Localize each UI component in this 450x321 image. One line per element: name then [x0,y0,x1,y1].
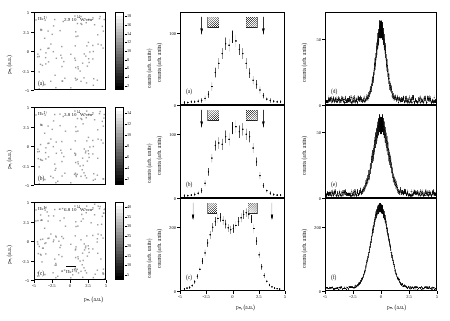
plot-canvas-d [326,13,436,104]
intensity-label-c: 6.8 1014W/cm² [64,205,94,212]
plot-canvas-b [181,106,284,197]
density-canvas-a [35,13,106,90]
right-panels: (d) (e) (f) counts (arb. units) counts (… [295,12,450,312]
density-canvas-b [35,108,106,185]
panel-label-e: (e) [331,181,337,187]
plot-canvas-a [181,13,284,104]
ylabel-a: pₙᵧ (a.u.) [6,55,12,74]
xlabel-left-column: pₙₓ (a.u.) [84,296,103,302]
panel-label-a: (a) [38,80,44,86]
panel-label-b: (b) [38,175,44,181]
ylabel-f: counts (arb. units) [301,229,307,268]
panel-label-f: (f) [331,274,336,280]
plot-d [325,12,437,105]
intensity-unit-b: W/cm² [80,112,94,117]
plot-canvas-f [326,199,436,290]
right-column: (d) (e) (f) counts (arb. units) counts (… [295,0,450,321]
intensity-mantissa-a: 2.9 [64,17,70,22]
ylabel-mid-c: counts (arb. units) [156,229,162,268]
ylabel-d: counts (arb. units) [301,43,307,82]
colorbar-ticks-b: 1412108642 [125,107,147,185]
panel-label-mid-a: (a) [186,88,192,94]
ylabel-c: pₙᵧ (a.u.) [6,245,12,264]
colorbar-ticks-a: 18161412108642 [125,12,147,90]
plot-b [180,105,285,198]
density-map-b [34,107,106,185]
xlabel-middle-column: pₙᵧ (a.u.) [236,304,255,310]
ylabel-e: counts (arb. units) [301,136,307,175]
plot-e [325,105,437,198]
colorbar-ticks-c: 403530252015105 [125,202,147,280]
intensity-mantissa-c: 6.8 [64,207,70,212]
plot-canvas-c [181,199,284,290]
intensity-mantissa-b: 3.8 [64,112,70,117]
density-map-a [34,12,106,90]
figure-root: He²⁺ 2.9 1014W/cm² (a) pₙᵧ (a.u.) 181614… [0,0,450,321]
plot-f [325,198,437,291]
intensity-label-b: 3.8 1014W/cm² [64,110,94,117]
colorbar-a [115,12,124,90]
middle-column: (a) (b) (c) counts (arb. units) counts (… [150,0,295,321]
species-label-c: He²⁺ [38,205,48,211]
intensity-unit-a: W/cm² [80,17,94,22]
ylabel-mid-b: counts (arb. units) [156,136,162,175]
species-label-a: He²⁺ [38,15,48,21]
extra-species-label-c: He²⁺ [66,266,76,274]
ylabel-b: pₙᵧ (a.u.) [6,150,12,169]
species-label-b: He²⁺ [38,110,48,116]
panel-b: He²⁺ 3.8 1014W/cm² (b) pₙᵧ (a.u.) 141210… [0,107,150,197]
plot-c [180,198,285,291]
intensity-unit-c: W/cm² [80,207,94,212]
panel-label-c: (c) [38,270,44,276]
middle-panels: (a) (b) (c) counts (arb. units) counts (… [150,12,295,312]
panel-label-d: (d) [331,88,337,94]
intensity-label-a: 2.9 1014W/cm² [64,15,94,22]
colorbar-c [115,202,124,280]
panel-label-mid-c: (c) [186,274,192,280]
plot-canvas-e [326,106,436,197]
left-column: He²⁺ 2.9 1014W/cm² (a) pₙᵧ (a.u.) 181614… [0,0,150,321]
xlabel-right-column: pₙₓ (a.u.) [387,304,406,310]
panel-label-mid-b: (b) [186,181,192,187]
panel-a: He²⁺ 2.9 1014W/cm² (a) pₙᵧ (a.u.) 181614… [0,12,150,102]
ylabel-mid-a: counts (arb. units) [156,43,162,82]
colorbar-b [115,107,124,185]
panel-c: He²⁺ 6.8 1014W/cm² (c) He²⁺ pₙᵧ (a.u.) 4… [0,202,150,312]
plot-a [180,12,285,105]
